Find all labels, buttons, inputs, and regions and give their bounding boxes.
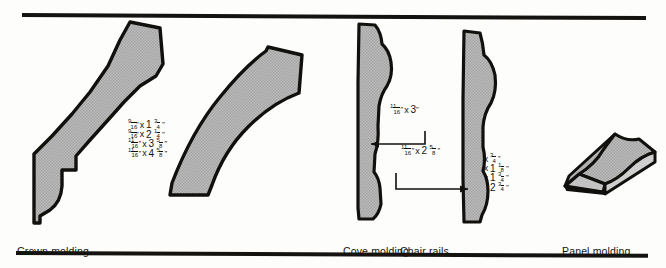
molding-profiles-figure: 916''x1 34'' 916''x2 14'' 1116''x3 58'' … <box>0 0 666 268</box>
dimension-row: 916''x1 34'' <box>128 119 167 129</box>
panel-molding-profile <box>555 130 665 202</box>
dimension-row: 1116''x3'' <box>390 104 418 114</box>
section-panel-molding: 916''x1 18'' 1116''x1 58'' Panel molding <box>512 17 666 249</box>
dimension-row: 1116''x2 58'' <box>401 145 440 155</box>
chair-rail-dimension-1: 1116''x3'' <box>390 104 418 114</box>
chair-rail-dimension-2: 1116''x2 58'' <box>401 145 440 155</box>
section-cove-molding: 34''x34'' 34''x1 18'' 916''x1 34'' 916''… <box>200 17 350 249</box>
section-chair-rails: Chair rails <box>332 17 514 249</box>
cove-molding-profile <box>168 45 313 200</box>
dimension-row: 1116''x4 58'' <box>128 148 167 158</box>
caption-crown-molding: Crown molding <box>17 245 89 257</box>
crown-dimensions: 916''x1 34'' 916''x2 14'' 1116''x3 58'' … <box>128 119 167 157</box>
caption-panel-molding: Panel molding <box>562 245 631 257</box>
chair-rail-callout-leader-2 <box>394 172 480 198</box>
bottom-rule <box>16 251 648 258</box>
caption-chair-rails: Chair rails <box>400 245 449 257</box>
chair-rail-profile-left <box>345 22 401 222</box>
